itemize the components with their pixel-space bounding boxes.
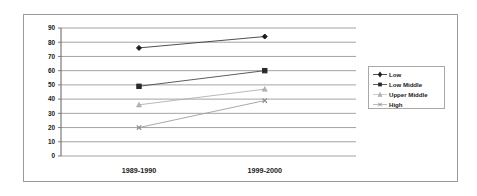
y-tick-label: 80 xyxy=(48,39,56,46)
legend-marker-diamond-icon xyxy=(372,70,388,79)
x-tick-labels: 1989-19901999-2000 xyxy=(122,166,282,175)
series-line-low-middle xyxy=(139,71,265,87)
legend-marker-square-icon xyxy=(372,80,388,89)
legend-label-low-middle: Low Middle xyxy=(388,80,422,89)
legend-label-low: Low xyxy=(388,70,401,79)
legend-marker-triangle-icon xyxy=(372,90,388,99)
y-tick-label: 50 xyxy=(48,81,56,88)
legend-entry-low-middle: Low Middle xyxy=(372,80,444,89)
y-tick-labels: 9080706050403020100 xyxy=(48,24,56,159)
data-point-upper-middle xyxy=(262,87,267,92)
y-tick-label: 10 xyxy=(48,138,56,145)
legend-label-high: High xyxy=(388,100,403,109)
x-tick-label: 1999-2000 xyxy=(248,166,282,175)
legend-marker-cross-icon xyxy=(372,100,388,109)
y-tick-label: 40 xyxy=(48,95,56,102)
y-tick-label: 90 xyxy=(48,24,56,31)
data-point-low-middle xyxy=(137,84,141,88)
y-tick-label: 70 xyxy=(48,53,56,60)
series-group xyxy=(136,34,267,130)
data-point-low-middle xyxy=(263,68,267,72)
y-tick-label: 30 xyxy=(48,110,56,117)
y-tick-label: 0 xyxy=(51,152,55,159)
x-tick-label: 1989-1990 xyxy=(122,166,156,175)
y-tick-label: 60 xyxy=(48,67,56,74)
data-point-low xyxy=(136,45,141,50)
chart-legend: Low Low Middle Upper Middle xyxy=(368,66,445,109)
legend-entry-high: High xyxy=(372,100,444,109)
legend-entry-upper-middle: Upper Middle xyxy=(372,90,444,99)
figure-frame: 9080706050403020100 1989-19901999-2000 L… xyxy=(23,14,458,182)
legend-label-upper-middle: Upper Middle xyxy=(388,90,428,99)
legend-entry-low: Low xyxy=(372,70,444,79)
y-tick-label: 20 xyxy=(48,124,56,131)
gridlines xyxy=(61,28,356,156)
data-point-low xyxy=(262,34,267,39)
series-line-high xyxy=(139,101,265,128)
series-line-upper-middle xyxy=(139,89,265,105)
